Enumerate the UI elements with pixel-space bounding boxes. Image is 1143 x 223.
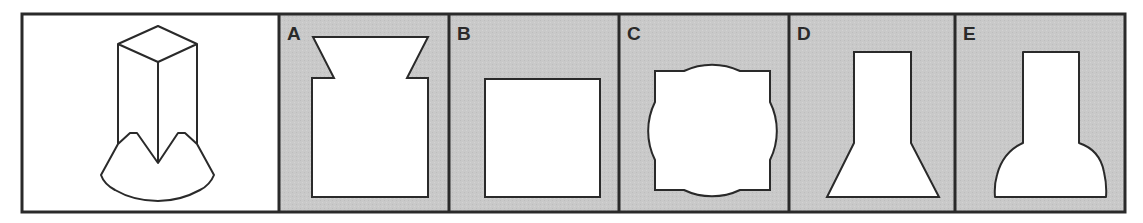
option-a[interactable]: A xyxy=(279,14,449,212)
prism-on-base-figure xyxy=(101,26,214,201)
option-d[interactable]: D xyxy=(789,14,955,212)
option-b-label: B xyxy=(457,23,471,44)
option-a-shape xyxy=(312,37,428,197)
option-d-label: D xyxy=(797,23,811,44)
option-e-label: E xyxy=(963,23,976,44)
option-b[interactable]: B xyxy=(449,14,619,212)
option-e[interactable]: E xyxy=(955,14,1125,212)
puzzle-strip: A B C D E xyxy=(0,0,1143,223)
option-c-label: C xyxy=(627,23,641,44)
question-panel xyxy=(22,14,279,212)
option-c[interactable]: C xyxy=(619,14,789,212)
option-a-label: A xyxy=(287,23,301,44)
option-b-shape xyxy=(485,79,600,197)
option-c-shape xyxy=(648,65,777,197)
